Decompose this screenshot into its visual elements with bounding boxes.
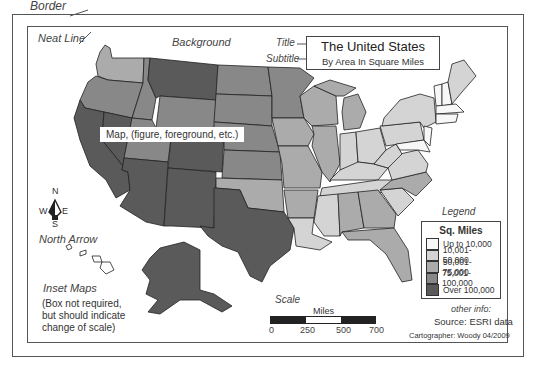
state-mississippi (314, 194, 340, 236)
state-arkansas (284, 190, 318, 218)
state-connecticut-ri (436, 114, 458, 124)
state-south-dakota (214, 94, 272, 126)
map-figure-label: Map, (figure, foreground, etc.) (100, 127, 244, 142)
legend: Sq. Miles Up to 10,000 10,001-50,000 50,… (421, 221, 501, 299)
state-hawaii (66, 244, 114, 274)
state-new-mexico (164, 168, 216, 228)
scale-bar (270, 316, 376, 324)
state-maine (448, 60, 476, 104)
legend-item: Over 100,000 (426, 284, 496, 296)
state-massachusetts (436, 104, 464, 114)
legend-item: 75,001-100,000 (426, 273, 496, 285)
legend-swatch (426, 261, 439, 273)
legend-label: Legend (442, 206, 475, 217)
north-arrow-label: North Arrow (39, 233, 97, 245)
state-new-york (382, 94, 436, 128)
state-washington (96, 45, 144, 83)
scale-segment (271, 317, 306, 323)
legend-swatch (426, 238, 439, 250)
legend-swatch (426, 284, 439, 296)
map-title: The United States (307, 39, 439, 54)
cartographer-text: Cartographer: Woody 04/2009 (409, 331, 510, 340)
compass-e: E (62, 206, 68, 216)
state-montana (148, 58, 218, 100)
state-kansas (222, 150, 282, 180)
map-title-box: The United States By Area In Square Mile… (306, 36, 440, 70)
inset-note-line-1: (Box not required, (42, 298, 122, 309)
compass-w: W (39, 206, 48, 216)
legend-swatch (426, 250, 439, 262)
scale-tick: 250 (300, 325, 315, 335)
compass-n: N (52, 186, 59, 196)
scale-unit: Miles (313, 306, 334, 316)
scale-label: Scale (275, 294, 300, 305)
scale-tick: 500 (336, 325, 351, 335)
legend-swatch (426, 273, 438, 285)
other-info-label: other info: (451, 304, 491, 314)
state-vermont (434, 84, 442, 106)
state-north-dakota (216, 65, 272, 96)
state-florida (342, 228, 412, 282)
scale-segment (306, 317, 341, 323)
state-michigan (342, 94, 366, 130)
legend-heading: Sq. Miles (426, 225, 496, 236)
scale-segment (341, 317, 375, 323)
scale-tick: 700 (369, 325, 384, 335)
scale-tick: 0 (269, 325, 274, 335)
state-alaska (142, 242, 232, 314)
compass-s: S (52, 219, 58, 229)
inset-note-line-2: but should indicate (42, 310, 125, 321)
inset-note-line-3: change of scale) (42, 322, 115, 333)
source-text: Source: ESRI data (434, 316, 513, 327)
map-subtitle: By Area In Square Miles (307, 56, 439, 67)
inset-maps-label: Inset Maps (43, 282, 97, 294)
